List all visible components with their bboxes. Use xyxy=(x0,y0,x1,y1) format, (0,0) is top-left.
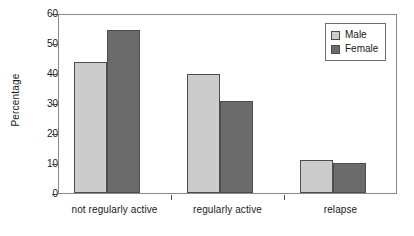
legend-label-male: Male xyxy=(345,30,367,40)
legend-swatch-male-icon xyxy=(331,31,340,40)
y-axis-ticks: 0 10 20 30 40 50 60 xyxy=(30,0,58,236)
bar-male-regularly-active xyxy=(187,74,220,193)
bar-chart: Percentage 0 10 20 30 40 50 60 xyxy=(0,0,414,236)
x-axis-label-not-regularly-active: not regularly active xyxy=(58,204,171,216)
plot-area: Male Female xyxy=(58,14,397,194)
legend: Male Female xyxy=(325,23,386,61)
legend-item-female: Female xyxy=(331,42,378,56)
bar-female-not-regularly-active xyxy=(107,30,140,193)
bar-female-regularly-active xyxy=(220,101,253,193)
x-axis-separator-2 xyxy=(284,195,285,200)
legend-label-female: Female xyxy=(345,44,378,54)
bar-male-not-regularly-active xyxy=(74,62,107,193)
x-axis-label-relapse: relapse xyxy=(284,204,397,216)
legend-swatch-female-icon xyxy=(331,45,340,54)
y-axis-title: Percentage xyxy=(8,10,24,190)
legend-item-male: Male xyxy=(331,28,378,42)
bar-female-relapse xyxy=(333,163,366,193)
bar-male-relapse xyxy=(300,160,333,193)
x-axis-separator-1 xyxy=(171,195,172,200)
x-axis-label-regularly-active: regularly active xyxy=(171,204,284,216)
y-tick-mark-0 xyxy=(52,194,58,195)
